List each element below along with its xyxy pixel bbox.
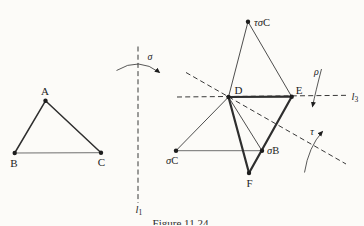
label-l3-text: 3 [354, 95, 358, 104]
edge-D-sigma-B [229, 97, 263, 151]
edge-D-F [229, 97, 250, 173]
edge-sigma-C-D [176, 97, 229, 151]
label-E: E [296, 84, 303, 96]
label-sigma-C: σC [166, 155, 178, 166]
label-E-text: E [296, 84, 303, 96]
label-sigma-text: σ [148, 51, 154, 62]
label-D: D [235, 84, 243, 96]
label-tau-text: τ [310, 126, 314, 137]
point-E-dot [290, 95, 294, 99]
label-A: A [41, 85, 49, 97]
label-l3: l3 [352, 91, 359, 105]
label-sigma-B-text: B [272, 145, 279, 156]
tau-arrow [305, 132, 323, 173]
label-B-text: B [10, 157, 17, 169]
label-F-text: F [246, 177, 252, 189]
label-tau-sigma-C-text: C [263, 17, 270, 28]
label-C: C [98, 156, 105, 168]
label-sigma-C-text: C [171, 155, 178, 166]
label-l1-text: 1 [138, 208, 142, 217]
point-tau-sigma-C-dot [246, 20, 250, 24]
edge-A-C [46, 101, 102, 153]
label-sigma: σ [148, 51, 154, 62]
label-l1: l1 [136, 204, 143, 218]
label-sigma-B: σB [267, 145, 279, 156]
edge-A-B [15, 101, 46, 153]
point-sigma-C-dot [174, 149, 178, 153]
label-tau: τ [310, 126, 314, 137]
label-rho-text: ρ [313, 66, 319, 77]
label-B: B [10, 157, 17, 169]
point-B-dot [13, 151, 17, 155]
point-F-dot [247, 171, 251, 175]
point-A-dot [43, 99, 47, 103]
edge-tau-sigma-C-E [248, 22, 292, 97]
point-D-dot [226, 95, 230, 99]
geometry-diagram-svg: Figure 11.24 ABCσl1τσCDEρl3σCσBFτ [0, 0, 364, 225]
label-tau-sigma-C: τσC [254, 17, 270, 28]
edge-E-F [249, 97, 292, 173]
label-rho: ρ [313, 66, 319, 77]
point-C-dot [99, 151, 103, 155]
figure-canvas: Figure 11.24 ABCσl1τσCDEρl3σCσBFτ [0, 0, 364, 225]
figure-caption: Figure 11.24 [153, 217, 209, 226]
label-C-text: C [98, 156, 105, 168]
label-D-text: D [235, 84, 243, 96]
label-A-text: A [41, 85, 49, 97]
label-F: F [246, 177, 252, 189]
point-sigma-B-dot [260, 149, 264, 153]
